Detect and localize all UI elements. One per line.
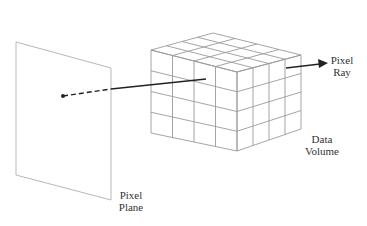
pixel-plane-label-line1: Pixel [114, 189, 148, 201]
data-volume-cube [151, 33, 301, 151]
data-volume-label: Data Volume [300, 133, 344, 157]
pixel-ray-label-line2: Ray [322, 66, 362, 78]
pixel-plane [16, 42, 111, 200]
pixel-plane-label-line2: Plane [114, 201, 148, 213]
data-volume-label-line1: Data [300, 133, 344, 145]
ray-solid-segment [111, 79, 206, 89]
data-volume-label-line2: Volume [300, 145, 344, 157]
pixel-ray-label-line1: Pixel [322, 54, 362, 66]
ray-dashed-segment [63, 89, 111, 96]
pixel-plane-label: Pixel Plane [114, 189, 148, 213]
volume-ray-casting-diagram [0, 0, 367, 226]
pixel-ray-label: Pixel Ray [322, 54, 362, 78]
ray-exit-line [286, 64, 320, 68]
